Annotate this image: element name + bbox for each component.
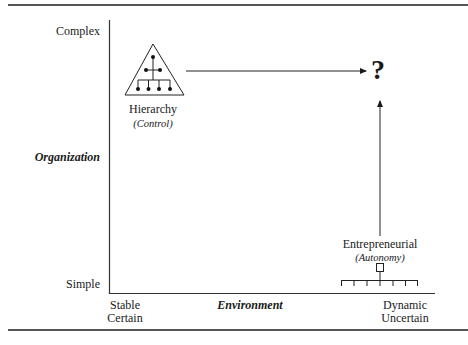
diagram-canvas bbox=[0, 0, 468, 345]
y-axis-bottom-label: Simple bbox=[20, 278, 100, 291]
question-mark-node: ? bbox=[371, 55, 385, 85]
x-axis-left-label: Stable Certain bbox=[100, 299, 150, 325]
pyramid-org-chart-icon bbox=[125, 44, 184, 95]
x-axis-right-label: Dynamic Uncertain bbox=[370, 299, 440, 325]
flat-org-chart-icon bbox=[341, 264, 418, 287]
hierarchy-sublabel: (Control) bbox=[113, 117, 193, 130]
x-axis-right-label-line2: Uncertain bbox=[370, 312, 440, 325]
hierarchy-label: Hierarchy bbox=[113, 103, 193, 116]
entrepreneurial-label: Entrepreneurial bbox=[330, 238, 430, 251]
entrepreneurial-sublabel: (Autonomy) bbox=[330, 251, 430, 264]
y-axis-title: Organization bbox=[10, 151, 100, 164]
y-axis-top-label: Complex bbox=[20, 25, 100, 38]
x-axis-title: Environment bbox=[200, 299, 300, 312]
x-axis-left-label-line2: Certain bbox=[100, 312, 150, 325]
